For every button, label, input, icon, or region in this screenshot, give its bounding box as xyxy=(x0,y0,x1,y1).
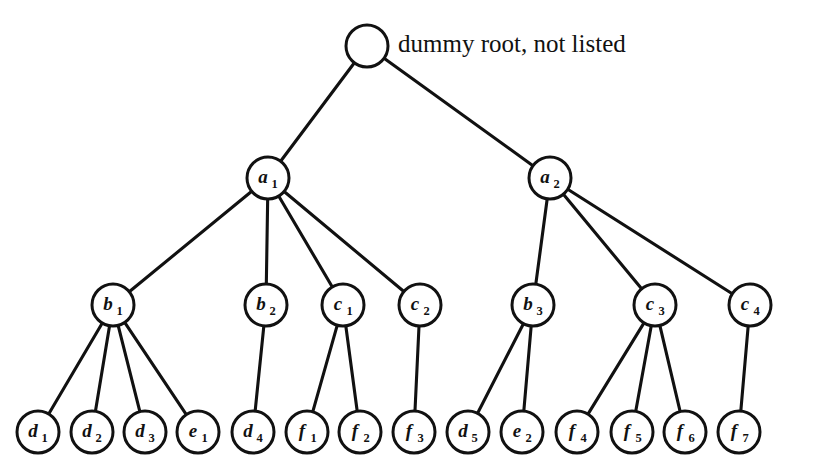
node-subscript-e2: 2 xyxy=(525,431,531,445)
node-label-b2: b xyxy=(256,293,266,314)
node-circle-b3 xyxy=(512,284,554,326)
tree-node-c3[interactable]: c3 xyxy=(634,284,676,326)
node-label-c2: c xyxy=(411,293,420,314)
tree-node-f6[interactable]: f6 xyxy=(664,411,706,453)
node-label-c4: c xyxy=(741,293,750,314)
node-subscript-f5: 5 xyxy=(635,431,641,445)
node-label-b1: b xyxy=(103,293,113,314)
node-subscript-a2: 2 xyxy=(553,177,559,191)
tree-node-f3[interactable]: f3 xyxy=(393,411,435,453)
node-circle-c4 xyxy=(729,284,771,326)
root-caption: dummy root, not listed xyxy=(398,30,626,57)
tree-edge-a2-b3 xyxy=(536,199,547,284)
tree-edge-a1-b1 xyxy=(129,191,252,291)
node-label-b3: b xyxy=(523,293,533,314)
node-subscript-d2: 2 xyxy=(95,431,101,445)
node-label-a1: a xyxy=(258,166,268,187)
node-circle-d2 xyxy=(71,411,113,453)
tree-node-root[interactable] xyxy=(346,25,388,67)
tree-node-b3[interactable]: b3 xyxy=(512,284,554,326)
tree-node-f7[interactable]: f7 xyxy=(718,411,760,453)
tree-edge-c1-f1 xyxy=(313,325,338,412)
node-circle-d5 xyxy=(447,411,489,453)
node-subscript-f7: 7 xyxy=(742,431,748,445)
node-subscript-c2: 2 xyxy=(423,304,429,318)
tree-node-b2[interactable]: b2 xyxy=(245,284,287,326)
tree-node-f2[interactable]: f2 xyxy=(339,411,381,453)
node-subscript-d5: 5 xyxy=(471,431,477,445)
tree-edge-b1-d2 xyxy=(95,326,109,412)
tree-node-f4[interactable]: f4 xyxy=(556,411,598,453)
tree-node-c4[interactable]: c4 xyxy=(729,284,771,326)
tree-edge-root-a1 xyxy=(281,63,355,161)
tree-node-b1[interactable]: b1 xyxy=(92,284,134,326)
node-subscript-d4: 4 xyxy=(256,431,263,445)
node-subscript-c4: 4 xyxy=(753,304,760,318)
tree-edge-b1-d1 xyxy=(49,323,103,414)
tree-node-a1[interactable]: a1 xyxy=(247,157,289,199)
node-label-d4: d xyxy=(243,420,253,441)
tree-node-f5[interactable]: f5 xyxy=(611,411,653,453)
tree-node-d1[interactable]: d1 xyxy=(17,411,59,453)
tree-edge-b3-d5 xyxy=(478,324,524,414)
node-circle-a2 xyxy=(529,157,571,199)
node-subscript-b3: 3 xyxy=(536,304,542,318)
tree-node-c2[interactable]: c2 xyxy=(399,284,441,326)
node-label-c1: c xyxy=(334,293,343,314)
tree-edge-a1-c2 xyxy=(284,191,404,291)
node-circle-c3 xyxy=(634,284,676,326)
node-subscript-f1: 1 xyxy=(310,431,316,445)
tree-node-e1[interactable]: e1 xyxy=(177,411,219,453)
tree-node-e2[interactable]: e2 xyxy=(501,411,543,453)
tree-edge-c2-f3 xyxy=(415,326,419,411)
node-subscript-f3: 3 xyxy=(417,431,423,445)
tree-edge-b3-e2 xyxy=(524,326,531,411)
node-circle-d3 xyxy=(124,411,166,453)
node-subscript-f4: 4 xyxy=(580,431,587,445)
node-layer: a1a2b1b2c1c2b3c3c4d1d2d3e1d4f1f2f3d5e2f4… xyxy=(17,25,771,453)
node-circle-c1 xyxy=(322,284,364,326)
tree-edge-c1-f2 xyxy=(346,326,357,411)
tree-edge-c3-f5 xyxy=(636,326,652,412)
node-circle-b1 xyxy=(92,284,134,326)
node-circle-e1 xyxy=(177,411,219,453)
node-circle-root xyxy=(346,25,388,67)
node-subscript-b1: 1 xyxy=(116,304,122,318)
node-label-d3: d xyxy=(135,420,145,441)
edge-layer xyxy=(49,58,749,414)
tree-edge-root-a2 xyxy=(384,58,533,165)
node-subscript-e1: 1 xyxy=(201,431,207,445)
tree-node-d5[interactable]: d5 xyxy=(447,411,489,453)
node-circle-c2 xyxy=(399,284,441,326)
node-subscript-a1: 1 xyxy=(271,177,277,191)
tree-edge-a2-c3 xyxy=(563,194,641,289)
tree-node-a2[interactable]: a2 xyxy=(529,157,571,199)
node-subscript-f6: 6 xyxy=(688,431,694,445)
tree-edge-c3-f4 xyxy=(588,323,644,414)
node-subscript-d1: 1 xyxy=(41,431,47,445)
node-subscript-c1: 1 xyxy=(346,304,352,318)
node-label-e2: e xyxy=(513,420,522,441)
node-circle-d4 xyxy=(232,411,274,453)
node-label-a2: a xyxy=(540,166,550,187)
node-circle-f7 xyxy=(718,411,760,453)
annotation-layer: dummy root, not listed xyxy=(398,30,626,57)
tree-node-d4[interactable]: d4 xyxy=(232,411,274,453)
node-circle-f3 xyxy=(393,411,435,453)
node-circle-a1 xyxy=(247,157,289,199)
tree-edge-c4-f7 xyxy=(741,326,748,411)
node-circle-b2 xyxy=(245,284,287,326)
tree-node-f1[interactable]: f1 xyxy=(286,411,328,453)
tree-edge-c3-f6 xyxy=(660,325,680,411)
tree-node-d3[interactable]: d3 xyxy=(124,411,166,453)
node-circle-e2 xyxy=(501,411,543,453)
tree-edge-b1-e1 xyxy=(125,322,187,414)
tree-diagram: a1a2b1b2c1c2b3c3c4d1d2d3e1d4f1f2f3d5e2f4… xyxy=(0,0,817,473)
node-circle-f2 xyxy=(339,411,381,453)
tree-node-d2[interactable]: d2 xyxy=(71,411,113,453)
node-subscript-d3: 3 xyxy=(148,431,154,445)
node-circle-f5 xyxy=(611,411,653,453)
tree-node-c1[interactable]: c1 xyxy=(322,284,364,326)
node-circle-d1 xyxy=(17,411,59,453)
node-label-d2: d xyxy=(82,420,92,441)
